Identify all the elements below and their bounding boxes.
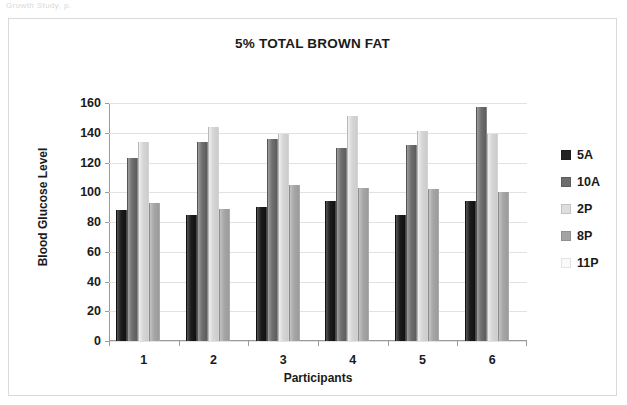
bar-2P-6	[487, 134, 498, 341]
bar-8P-3	[289, 185, 300, 341]
bar-8P-6	[498, 192, 509, 341]
figure-frame: 5% TOTAL BROWN FAT Blood Glucose Level P…	[8, 18, 617, 396]
legend-swatch-icon	[561, 258, 571, 268]
legend-item-label: 5A	[577, 148, 593, 162]
bar-2P-2	[208, 127, 219, 341]
x-axis-tick	[318, 341, 319, 346]
legend-swatch-icon	[561, 204, 571, 214]
bar-2P-1	[138, 142, 149, 341]
bar-2P-4	[347, 116, 358, 341]
bar-group: 2	[179, 103, 249, 341]
x-axis-tick	[179, 341, 180, 346]
bar-group: 1	[109, 103, 179, 341]
y-axis-tick-label: 60	[87, 245, 101, 259]
legend-item-5A[interactable]: 5A	[561, 141, 623, 168]
bar-5A-4	[325, 201, 336, 341]
legend-item-8P[interactable]: 8P	[561, 222, 623, 249]
legend-item-2P[interactable]: 2P	[561, 195, 623, 222]
y-axis-tick-label: 80	[87, 215, 101, 229]
bar-5A-2	[186, 215, 197, 341]
bar-8P-1	[149, 203, 160, 341]
bar-10A-5	[406, 145, 417, 341]
y-axis-tick-label: 20	[87, 304, 101, 318]
legend-item-11P[interactable]: 11P	[561, 249, 623, 276]
bar-group: 5	[388, 103, 458, 341]
bar-group: 4	[318, 103, 388, 341]
bar-5A-3	[256, 207, 267, 341]
x-axis-tick	[457, 341, 458, 346]
scan-top-fragment: Growth Study, p.	[6, 1, 71, 10]
x-axis-title: Participants	[109, 371, 527, 385]
bar-8P-2	[219, 209, 230, 341]
bar-10A-3	[267, 139, 278, 341]
y-axis-tick-label: 0	[94, 334, 101, 348]
bar-10A-2	[197, 142, 208, 341]
y-axis-tick-label: 100	[80, 185, 101, 199]
legend-item-label: 11P	[577, 256, 599, 270]
legend-swatch-icon	[561, 231, 571, 241]
x-axis-tick-label: 6	[489, 353, 496, 367]
legend-item-10A[interactable]: 10A	[561, 168, 623, 195]
x-axis-tick	[248, 341, 249, 346]
bar-2P-5	[417, 131, 428, 341]
legend: 5A10A2P8P11P	[561, 141, 623, 276]
legend-swatch-icon	[561, 177, 571, 187]
bar-2P-3	[278, 134, 289, 341]
x-axis-tick-label: 1	[140, 353, 147, 367]
legend-item-label: 10A	[577, 175, 600, 189]
bar-5A-6	[465, 201, 476, 341]
x-axis-tick-label: 3	[280, 353, 287, 367]
legend-item-label: 8P	[577, 229, 592, 243]
legend-item-label: 2P	[577, 202, 592, 216]
x-axis-tick-label: 4	[349, 353, 356, 367]
bar-group: 3	[248, 103, 318, 341]
x-axis-tick	[109, 341, 110, 346]
y-axis-title: Blood Glucose Level	[36, 148, 50, 267]
bar-5A-5	[395, 215, 406, 341]
x-axis-tick	[388, 341, 389, 346]
bar-8P-5	[428, 189, 439, 341]
x-axis-tick-label: 2	[210, 353, 217, 367]
bar-8P-4	[358, 188, 369, 341]
legend-swatch-icon	[561, 150, 571, 160]
bar-10A-4	[336, 148, 347, 341]
bar-groups: 123456	[109, 103, 527, 341]
bar-group: 6	[457, 103, 527, 341]
x-axis-tick-label: 5	[419, 353, 426, 367]
y-axis-tick-label: 120	[80, 156, 101, 170]
y-axis-tick-label: 160	[80, 96, 101, 110]
bar-10A-6	[476, 107, 487, 341]
x-axis-tick	[526, 341, 527, 346]
y-axis-tick-label: 40	[87, 275, 101, 289]
y-axis-tick-label: 140	[80, 126, 101, 140]
chart-title: 5% TOTAL BROWN FAT	[9, 36, 616, 51]
bar-5A-1	[116, 210, 127, 341]
plot-area: 020406080100120140160 123456	[109, 103, 527, 341]
bar-10A-1	[127, 158, 138, 341]
